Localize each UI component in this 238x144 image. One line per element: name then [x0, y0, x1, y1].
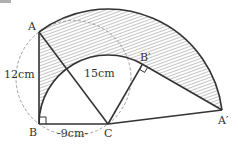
header-bar-fragment [0, 0, 11, 3]
label-a-prime: A′ [217, 114, 229, 127]
segment-ca-prime [108, 110, 222, 124]
label-b-prime: B′ [140, 51, 151, 64]
geometry-figure: A B C A′ B′ 12cm 15cm -9cm- [0, 0, 238, 144]
label-a: A [27, 20, 37, 33]
measure-ab: 12cm [4, 68, 35, 81]
shaded-region [39, 9, 222, 124]
measure-ac: 15cm [84, 67, 115, 80]
label-c: C [104, 127, 112, 140]
right-angle-marker-b [39, 117, 46, 124]
label-b: B [29, 126, 37, 139]
measure-bc: -9cm- [57, 127, 88, 140]
